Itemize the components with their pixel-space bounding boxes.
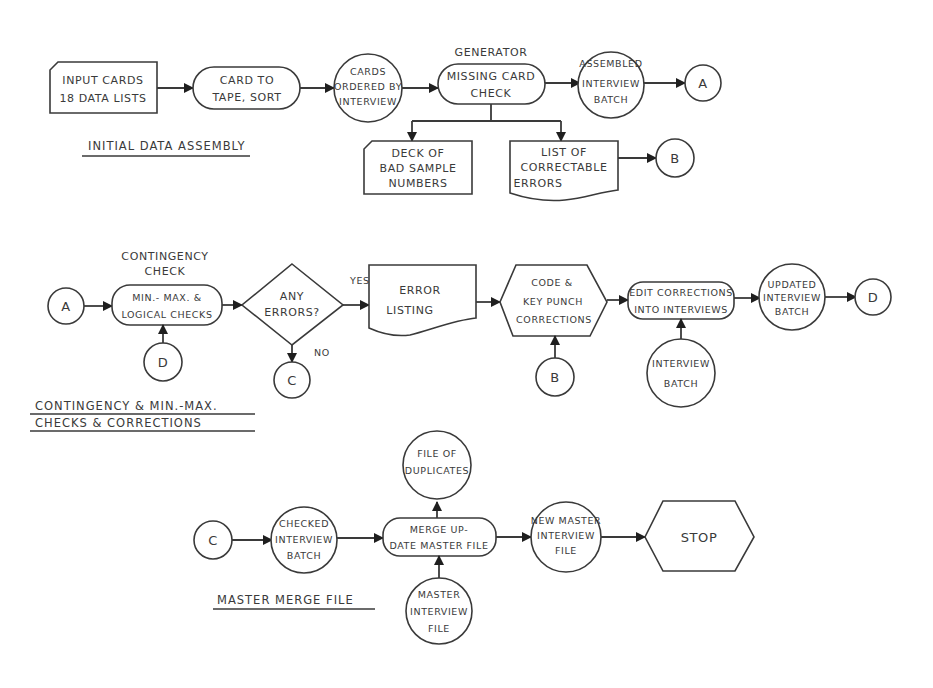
error-listing-node: ERROR LISTING	[369, 265, 476, 336]
assembled-batch-label-2: INTERVIEW	[582, 78, 640, 89]
list-label-3: ERRORS	[513, 177, 562, 190]
duplicates-label-1: FILE OF	[417, 448, 457, 459]
any-errors-label-2: ERRORS?	[264, 306, 320, 319]
input-cards-label-2: 18 DATA LISTS	[59, 92, 146, 105]
deck-label-3: NUMBERS	[388, 177, 447, 190]
assembled-batch-node: ASSEMBLED INTERVIEW BATCH	[578, 52, 644, 118]
flowchart: INPUT CARDS 18 DATA LISTS CARD TO TAPE, …	[0, 0, 933, 688]
contingency-caption-1: CONTINGENCY	[121, 250, 208, 263]
cards-ordered-label-3: INTERVIEW	[339, 96, 397, 107]
any-errors-decision: ANY ERRORS?	[242, 264, 343, 345]
connector-c-in: C	[194, 521, 232, 559]
edit-corrections-node: EDIT CORRECTIONS INTO INTERVIEWS	[628, 282, 734, 319]
yes-label: YES	[349, 275, 370, 286]
merge-label-1: MERGE UP-	[410, 524, 469, 535]
card-to-tape-label-1: CARD TO	[220, 74, 274, 87]
connector-d-in: D	[144, 343, 182, 381]
minmax-label-2: LOGICAL CHECKS	[121, 309, 212, 320]
connector-b-in-label: B	[550, 370, 560, 385]
checked-label-3: BATCH	[287, 550, 321, 561]
keypunch-label-1: CODE &	[531, 277, 572, 288]
file-duplicates-node: FILE OF DUPLICATES	[403, 431, 471, 499]
generator-caption: GENERATOR	[455, 46, 528, 59]
edit-label-1: EDIT CORRECTIONS	[629, 287, 733, 298]
section-title-contingency-1: CONTINGENCY & MIN.-MAX.	[35, 399, 218, 413]
connector-b-in: B	[536, 358, 574, 396]
connector-a-out: A	[685, 65, 721, 101]
assembled-batch-label-3: BATCH	[594, 94, 628, 105]
connector-c-out-label: C	[287, 373, 297, 388]
code-keypunch-node: CODE & KEY PUNCH CORRECTIONS	[500, 265, 607, 336]
connector-b-out: B	[656, 139, 694, 177]
list-correctable-node: LIST OF CORRECTABLE ERRORS	[510, 141, 618, 201]
cards-ordered-node: CARDS ORDERED BY INTERVIEW	[334, 54, 402, 122]
contingency-caption-2: CHECK	[145, 265, 186, 278]
keypunch-label-2: KEY PUNCH	[523, 296, 583, 307]
updated-label-1: UPDATED	[768, 279, 817, 290]
keypunch-label-3: CORRECTIONS	[516, 314, 592, 325]
merge-update-node: MERGE UP- DATE MASTER FILE	[383, 518, 496, 556]
deck-label-2: BAD SAMPLE	[380, 162, 457, 175]
interview-batch-label-2: BATCH	[664, 378, 698, 389]
connector-a-out-label: A	[698, 76, 708, 91]
card-to-tape-node: CARD TO TAPE, SORT	[193, 67, 300, 109]
connector-c-out: C	[274, 362, 310, 398]
connector-d-out-label: D	[868, 290, 879, 305]
minmax-label-1: MIN.- MAX. &	[132, 292, 201, 303]
connector-d-out: D	[855, 279, 891, 315]
section-title-contingency-2: CHECKS & CORRECTIONS	[35, 416, 202, 430]
card-to-tape-label-2: TAPE, SORT	[211, 91, 281, 104]
assembled-batch-label-1: ASSEMBLED	[579, 58, 642, 69]
master-label-3: FILE	[428, 623, 450, 634]
interview-batch-node: INTERVIEW BATCH	[647, 339, 715, 407]
deck-label-1: DECK OF	[392, 147, 445, 160]
edge-check-branch	[412, 104, 561, 121]
cards-ordered-label-2: ORDERED BY	[334, 81, 402, 92]
input-cards-label-1: INPUT CARDS	[62, 74, 143, 87]
error-listing-label-1: ERROR	[399, 284, 441, 297]
new-master-label-3: FILE	[555, 545, 577, 556]
stop-label: STOP	[681, 530, 718, 545]
checked-label-2: INTERVIEW	[275, 534, 333, 545]
master-label-1: MASTER	[418, 589, 461, 600]
edit-label-2: INTO INTERVIEWS	[634, 304, 728, 315]
connector-a-in: A	[48, 288, 84, 324]
list-label-2: CORRECTABLE	[521, 161, 608, 174]
master-label-2: INTERVIEW	[410, 606, 468, 617]
new-master-file-node: NEW MASTER INTERVIEW FILE	[531, 502, 602, 572]
deck-bad-samples-node: DECK OF BAD SAMPLE NUMBERS	[364, 141, 472, 194]
updated-label-2: INTERVIEW	[763, 292, 821, 303]
stop-node: STOP	[645, 501, 754, 571]
error-listing-label-2: LISTING	[386, 304, 433, 317]
master-interview-file-node: MASTER INTERVIEW FILE	[406, 578, 472, 644]
section-title-initial: INITIAL DATA ASSEMBLY	[88, 139, 245, 153]
input-cards-node: INPUT CARDS 18 DATA LISTS	[50, 62, 157, 113]
section-title-master: MASTER MERGE FILE	[217, 593, 354, 607]
interview-batch-label-1: INTERVIEW	[652, 358, 710, 369]
connector-a-in-label: A	[61, 299, 71, 314]
merge-label-2: DATE MASTER FILE	[389, 540, 488, 551]
missing-card-check-label-1: MISSING CARD	[447, 70, 536, 83]
duplicates-label-2: DUPLICATES	[405, 465, 469, 476]
checked-batch-node: CHECKED INTERVIEW BATCH	[271, 507, 337, 573]
connector-d-in-label: D	[158, 355, 169, 370]
new-master-label-2: INTERVIEW	[537, 530, 595, 541]
any-errors-label-1: ANY	[280, 290, 304, 303]
connector-b-out-label: B	[670, 151, 680, 166]
new-master-label-1: NEW MASTER	[531, 515, 602, 526]
list-label-1: LIST OF	[541, 146, 587, 159]
checked-label-1: CHECKED	[279, 518, 329, 529]
missing-card-check-node: MISSING CARD CHECK	[438, 64, 545, 104]
connector-c-in-label: C	[208, 533, 218, 548]
missing-card-check-label-2: CHECK	[471, 87, 512, 100]
minmax-checks-node: MIN.- MAX. & LOGICAL CHECKS	[112, 285, 222, 325]
cards-ordered-label-1: CARDS	[350, 66, 386, 77]
updated-label-3: BATCH	[775, 306, 809, 317]
no-label: NO	[314, 347, 330, 358]
updated-batch-node: UPDATED INTERVIEW BATCH	[759, 264, 825, 330]
